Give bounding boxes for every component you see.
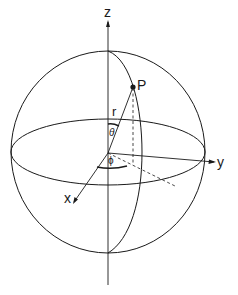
theta-label: θ xyxy=(109,127,115,138)
phi-arc xyxy=(97,166,127,168)
y-axis-arrowhead-icon xyxy=(209,160,217,165)
y-axis-label: y xyxy=(217,154,224,170)
theta-arc xyxy=(108,124,119,126)
z-axis-label: z xyxy=(104,4,111,20)
x-axis xyxy=(74,153,108,202)
z-axis-arrowhead-icon xyxy=(106,20,110,27)
point-p-marker xyxy=(130,84,135,89)
radius-label: r xyxy=(112,104,117,119)
point-p-label: P xyxy=(137,77,146,93)
x-axis-label: x xyxy=(64,190,71,206)
spherical-coordinates-diagram: z y x P r θ ϕ xyxy=(0,0,238,295)
phi-label: ϕ xyxy=(108,155,114,166)
